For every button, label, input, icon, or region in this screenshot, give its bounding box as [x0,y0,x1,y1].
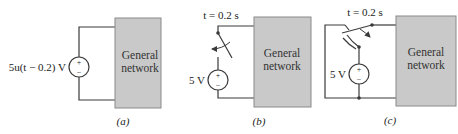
source-label: 5 V [330,68,346,80]
minus-sign: − [216,81,221,90]
caption-a: (a) [117,115,130,128]
wire-top [218,26,254,33]
source-label: 5u(t − 0.2) V [9,61,66,74]
switch-label: t = 0.2 s [203,9,239,21]
switch [342,23,374,49]
switch [212,31,232,58]
box-label-line2: network [263,60,301,72]
plus-sign: + [357,65,362,74]
minus-sign: − [77,68,82,77]
wire-top [79,27,115,57]
box-label-line1: General [408,46,444,58]
source-label: 5 V [189,74,205,86]
panel-b: t = 0.2 s + − 5 V General network (b) [189,9,311,128]
plus-sign: + [77,58,82,67]
box-label-line1: General [122,49,158,61]
caption-c: (c) [384,114,397,127]
box-label-line2: network [407,59,445,71]
wire-left-loop [325,25,359,98]
switch-arrow-icon [360,29,370,37]
panel-c: t = 0.2 s + − 5 V General network (c) [325,6,456,127]
voltage-source: + − [349,64,369,84]
switch-arrow-icon [212,42,230,49]
box-label-line1: General [264,47,300,59]
circuit-figure: + − 5u(t − 0.2) V General network (a) t … [0,0,458,134]
box-label-line2: network [121,62,159,74]
plus-sign: + [216,71,221,80]
switch-stub [345,25,349,30]
minus-sign: − [357,75,362,84]
caption-b: (b) [253,115,266,128]
switch-blade-lower [347,35,359,47]
panel-a: + − 5u(t − 0.2) V General network (a) [9,18,161,128]
voltage-source: + − [69,57,89,77]
wire-bottom [79,77,115,100]
wire-bottom [218,90,254,98]
junction-dot [357,96,361,100]
voltage-source: + − [208,70,228,90]
switch-label: t = 0.2 s [347,6,383,18]
